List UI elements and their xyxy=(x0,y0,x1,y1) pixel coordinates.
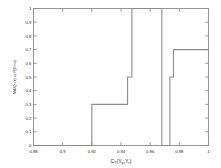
x-tick-label: 0.98 xyxy=(175,149,184,154)
x-tick-label: 0.88 xyxy=(29,149,38,154)
y-tick-label: 0.5 xyxy=(25,75,31,80)
x-tick-label: 0.92 xyxy=(88,149,97,154)
ecdf-step-line xyxy=(34,9,209,146)
y-tick-label: 1 xyxy=(29,6,32,11)
y-tick-label: 0.2 xyxy=(25,116,31,121)
y-tick-label: 0 xyxy=(29,143,32,148)
x-tick-label: 0.94 xyxy=(117,149,126,154)
figure-container: 0.880.90.920.940.960.98100.10.20.30.40.5… xyxy=(0,0,221,168)
x-tick-label: 1 xyxy=(207,149,210,154)
y-tick-label: 0.9 xyxy=(25,20,31,25)
y-tick-label: 0.1 xyxy=(25,129,31,134)
plot-frame xyxy=(34,9,209,146)
y-tick-label: 0.4 xyxy=(25,88,31,93)
x-tick-label: 0.96 xyxy=(146,149,155,154)
y-tick-label: 0.6 xyxy=(25,61,31,66)
x-tick-label: 0.9 xyxy=(60,149,66,154)
y-tick-label: 0.7 xyxy=(25,47,31,52)
y-axis-label: MAX(<=x) vs P(X<=x) xyxy=(13,60,17,94)
y-tick-label: 0.3 xyxy=(25,102,31,107)
x-axis-label: CT(Yp,Yr) xyxy=(111,158,132,165)
ecdf-chart: 0.880.90.920.940.960.98100.10.20.30.40.5… xyxy=(0,0,221,168)
chart-canvas: 0.880.90.920.940.960.98100.10.20.30.40.5… xyxy=(0,0,221,168)
y-tick-label: 0.8 xyxy=(25,34,31,39)
